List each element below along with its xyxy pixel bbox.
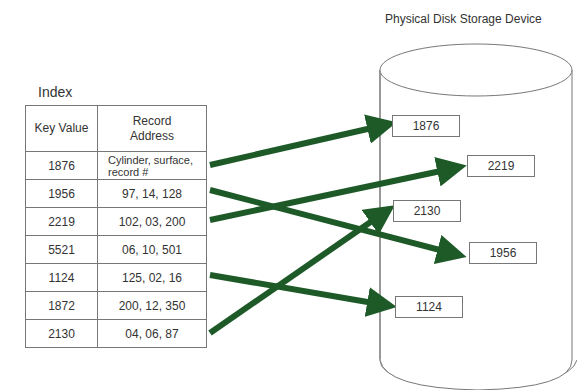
arrow-1876	[210, 125, 385, 165]
record-box-1124: 1124	[395, 296, 463, 318]
arrow-1124	[210, 275, 385, 305]
record-box-2219: 2219	[467, 155, 535, 177]
record-box-2130: 2130	[393, 200, 461, 222]
arrow-2130	[210, 212, 385, 333]
diagram-canvas	[0, 0, 577, 390]
record-box-1876: 1876	[392, 115, 460, 137]
record-box-1956: 1956	[469, 242, 537, 264]
